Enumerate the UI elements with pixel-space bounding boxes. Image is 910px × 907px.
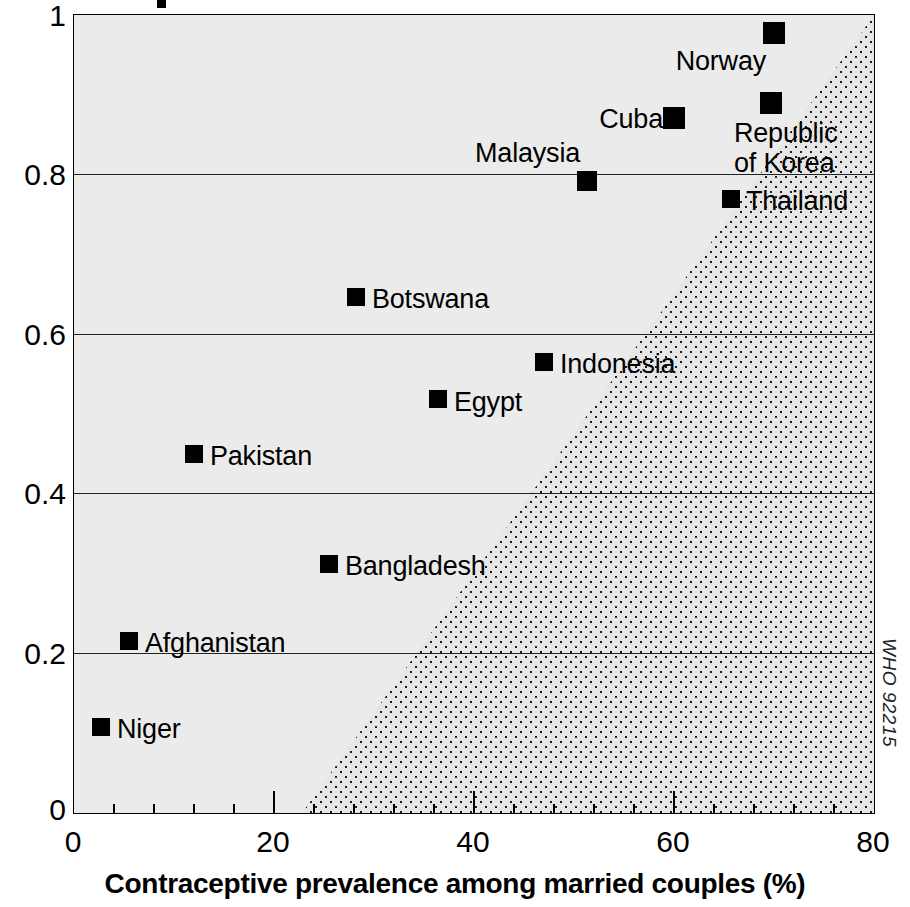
ytick-label-0: 0 bbox=[49, 793, 66, 827]
xtick-label-20: 20 bbox=[256, 825, 289, 859]
xtick-minor bbox=[513, 804, 515, 813]
ytick-label-0.2: 0.2 bbox=[24, 637, 66, 671]
ytick-label-0.4: 0.4 bbox=[24, 477, 66, 511]
xtick-major-40 bbox=[473, 791, 475, 813]
xtick-minor bbox=[753, 804, 755, 813]
xtick-major-60 bbox=[673, 791, 675, 813]
top-crop-artifact bbox=[157, 0, 166, 8]
xtick-minor bbox=[113, 804, 115, 813]
ytick-label-0.8: 0.8 bbox=[24, 158, 66, 192]
ytick-label-0.6: 0.6 bbox=[24, 318, 66, 352]
point-label-pakistan: Pakistan bbox=[210, 442, 312, 471]
data-point-niger[interactable] bbox=[92, 718, 110, 736]
xtick-minor bbox=[793, 804, 795, 813]
point-label-thailand: Thailand bbox=[746, 187, 848, 216]
plot-area: Norway Republic of Korea Cuba Malaysia T… bbox=[73, 14, 875, 814]
point-label-egypt: Egypt bbox=[454, 388, 522, 417]
xtick-minor bbox=[593, 804, 595, 813]
data-point-cuba[interactable] bbox=[663, 107, 685, 129]
data-point-republic-of-korea[interactable] bbox=[760, 92, 782, 114]
xtick-label-40: 40 bbox=[456, 825, 489, 859]
data-point-norway[interactable] bbox=[763, 22, 785, 44]
xtick-minor bbox=[633, 804, 635, 813]
data-point-afghanistan[interactable] bbox=[120, 632, 138, 650]
data-point-bangladesh[interactable] bbox=[320, 555, 338, 573]
x-axis-label: Contraceptive prevalence among married c… bbox=[0, 868, 910, 900]
point-label-republic-of-korea-line2: of Korea bbox=[734, 149, 834, 178]
gridline-0.6 bbox=[74, 334, 874, 335]
point-label-niger: Niger bbox=[117, 715, 181, 744]
xtick-minor bbox=[553, 804, 555, 813]
data-point-malaysia[interactable] bbox=[577, 171, 597, 191]
xtick-minor bbox=[353, 804, 355, 813]
xtick-minor bbox=[153, 804, 155, 813]
xtick-minor bbox=[313, 804, 315, 813]
data-point-egypt[interactable] bbox=[429, 390, 447, 408]
xtick-label-80: 80 bbox=[856, 825, 889, 859]
gridline-0.4 bbox=[74, 493, 874, 494]
xtick-major-20 bbox=[273, 791, 275, 813]
point-label-afghanistan: Afghanistan bbox=[145, 629, 285, 658]
point-label-indonesia: Indonesia bbox=[560, 350, 675, 379]
point-label-malaysia: Malaysia bbox=[475, 139, 580, 168]
point-label-norway: Norway bbox=[676, 47, 766, 76]
point-label-bangladesh: Bangladesh bbox=[345, 552, 486, 581]
point-label-cuba: Cuba bbox=[599, 105, 663, 134]
ytick-label-1: 1 bbox=[49, 0, 66, 33]
xtick-minor bbox=[393, 804, 395, 813]
xtick-label-60: 60 bbox=[656, 825, 689, 859]
chart-figure: Norway Republic of Korea Cuba Malaysia T… bbox=[0, 0, 910, 907]
who-credit-text: WHO 92215 bbox=[878, 638, 900, 747]
xtick-minor bbox=[193, 804, 195, 813]
data-point-botswana[interactable] bbox=[347, 288, 365, 306]
point-label-republic-of-korea-line1: Republic bbox=[734, 119, 837, 148]
data-point-indonesia[interactable] bbox=[535, 353, 553, 371]
point-label-botswana: Botswana bbox=[372, 285, 489, 314]
data-point-thailand[interactable] bbox=[722, 190, 740, 208]
xtick-minor bbox=[433, 804, 435, 813]
xtick-minor bbox=[233, 804, 235, 813]
xtick-minor bbox=[833, 804, 835, 813]
data-point-pakistan[interactable] bbox=[185, 445, 203, 463]
xtick-label-0: 0 bbox=[65, 825, 82, 859]
xtick-minor bbox=[713, 804, 715, 813]
